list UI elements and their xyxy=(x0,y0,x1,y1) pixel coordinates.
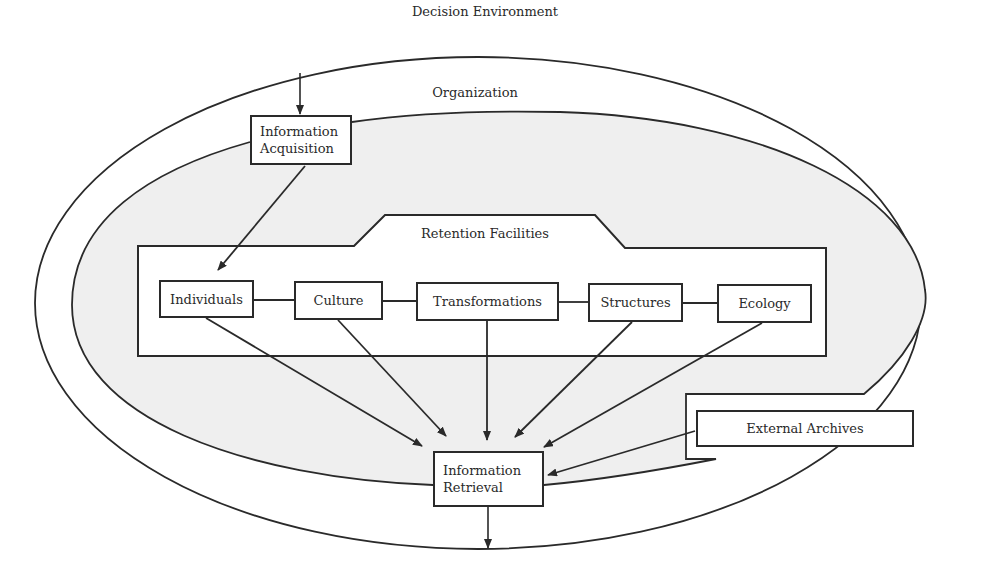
structures-node: Structures xyxy=(588,283,683,322)
information-acquisition-line1: Information xyxy=(260,123,338,140)
structures-label: Structures xyxy=(600,294,670,311)
ecology-node: Ecology xyxy=(717,284,812,323)
culture-label: Culture xyxy=(314,292,364,309)
information-retrieval-line1: Information xyxy=(443,462,521,479)
transformations-node: Transformations xyxy=(416,282,559,321)
culture-node: Culture xyxy=(294,281,383,320)
organization-label: Organization xyxy=(420,85,530,100)
retention-facilities-label: Retention Facilities xyxy=(405,226,565,241)
external-archives-node: External Archives xyxy=(696,410,914,447)
information-acquisition-line2: Acquisition xyxy=(260,140,334,157)
individuals-node: Individuals xyxy=(159,280,254,318)
transformations-label: Transformations xyxy=(433,293,542,310)
information-retrieval-node: Information Retrieval xyxy=(433,451,544,507)
individuals-label: Individuals xyxy=(170,291,243,308)
decision-environment-label: Decision Environment xyxy=(405,4,565,19)
information-retrieval-line2: Retrieval xyxy=(443,479,503,496)
ecology-label: Ecology xyxy=(738,295,790,312)
external-archives-label: External Archives xyxy=(746,420,864,437)
information-acquisition-node: Information Acquisition xyxy=(250,115,352,165)
